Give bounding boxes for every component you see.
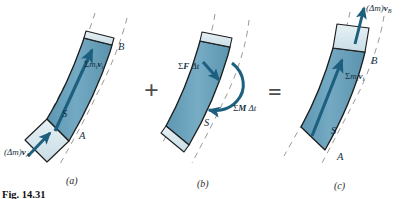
outflow-momentum-label-panel-c: (Δm)vB: [366, 4, 392, 14]
velocity-subscript: B: [388, 8, 392, 14]
velocity-subscript: i: [101, 64, 103, 70]
panel-a-graphics: [25, 13, 127, 164]
system-label-s-panel-c: S: [331, 126, 336, 137]
moment-glyph: M: [238, 103, 246, 113]
point-label-a-panel-c: A: [337, 152, 343, 163]
point-label-b-panel-a: B: [118, 42, 124, 53]
system-label-s-panel-a: S: [62, 109, 67, 120]
momentum-vector-label-panel-c: Σmivi: [345, 72, 364, 82]
delta-mass-term: (Δm): [4, 147, 22, 157]
panel-label-c: (c): [334, 181, 345, 191]
force-glyph: F: [183, 61, 189, 71]
panel-label-a: (a): [66, 176, 78, 186]
panel-b-graphics: [161, 14, 249, 163]
control-volume-body: [166, 41, 230, 145]
plus-operator: +: [144, 78, 159, 104]
delta-mass-term: (Δm): [366, 3, 384, 13]
velocity-subscript: A: [26, 152, 30, 158]
momentum-vector-label-panel-a: Σmivi: [84, 60, 103, 70]
velocity-subscript: i: [362, 76, 364, 82]
force-impulse-label-panel-b: ΣF Δt: [178, 62, 199, 71]
point-label-a-panel-a: A: [79, 131, 85, 142]
outflow-element-cap: [333, 24, 369, 52]
figure-caption: Fig. 14.31: [2, 190, 45, 199]
panel-label-b: (b): [197, 179, 209, 189]
system-label-s-panel-b: S: [204, 118, 209, 129]
moment-impulse-label-panel-b: ΣM Δt: [233, 104, 256, 113]
delta-t-term: Δt: [249, 103, 257, 113]
figure-14-31: B A S Σmivi (Δm)vA (a) + ΣF Δt ΣM Δt S (…: [0, 0, 408, 199]
point-label-b-panel-c: B: [371, 56, 377, 67]
inflow-momentum-label-panel-a: (Δm)vA: [4, 148, 30, 158]
figure-graphics: [0, 0, 408, 199]
equals-operator: =: [268, 80, 282, 104]
panel-c-graphics: [284, 8, 384, 163]
delta-t-term: Δt: [192, 61, 200, 71]
